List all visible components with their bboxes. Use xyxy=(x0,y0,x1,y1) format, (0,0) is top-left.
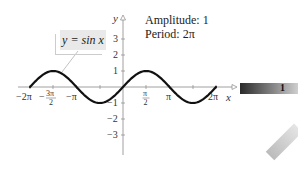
section-tab-number: 1 xyxy=(280,82,285,93)
x-tick-neg3pi2-den: 2 xyxy=(49,98,53,107)
y-tick-neg3: −3 xyxy=(107,129,118,140)
section-tab xyxy=(240,83,298,94)
x-tick-negpi: −π xyxy=(66,91,77,102)
y-tick-3: 3 xyxy=(113,33,118,44)
amplitude-text: Amplitude: 1 xyxy=(145,13,209,27)
equation-text: y = sin x xyxy=(62,33,104,48)
x-axis-arrow-icon xyxy=(232,85,237,90)
x-tick-pi2-num: π xyxy=(143,89,147,98)
y-tick-1: 1 xyxy=(113,65,118,76)
equation-label: y = sin x xyxy=(60,30,106,50)
y-axis-label: y xyxy=(112,12,118,24)
x-tick-pi2-den: 2 xyxy=(144,98,148,107)
x-tick-neg2pi: −2π xyxy=(16,91,32,102)
period-text: Period: 2π xyxy=(145,27,209,41)
x-tick-neg3pi2-minus: − xyxy=(39,91,45,102)
info-block: Amplitude: 1 Period: 2π xyxy=(145,13,209,41)
y-axis-arrow-icon xyxy=(121,15,126,20)
y-tick-2: 2 xyxy=(113,49,118,60)
y-tick-neg2: −2 xyxy=(107,113,118,124)
x-axis-label: x xyxy=(225,91,231,103)
x-tick-neg3pi2-num: 3π xyxy=(46,89,54,98)
x-tick-pi: π xyxy=(166,91,171,102)
